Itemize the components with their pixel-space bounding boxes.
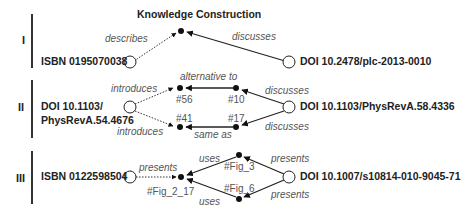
source-node-label-2-line2: PhysRevA.54.4676 xyxy=(41,114,134,126)
edge-label-presents-bottom: presents xyxy=(271,189,309,200)
source-node-label-2-line1: DOI 10.1103/ xyxy=(41,100,103,112)
node-tag-fig-3: #Fig_3 xyxy=(224,161,255,172)
edge-label-uses-top: uses xyxy=(199,153,220,164)
diagram-title: Knowledge Construction xyxy=(137,8,261,20)
edge-label-discusses-bottom: discusses xyxy=(265,121,309,132)
source-node-label-3: ISBN 0122598504 xyxy=(41,170,127,182)
target-node-label-2: DOI 10.1103/PhysRevA.58.4336 xyxy=(300,100,455,112)
node-tag-10: #10 xyxy=(228,94,245,105)
target-node-label-1: DOI 10.2478/plc-2013-0010 xyxy=(300,55,431,67)
edge-label-uses-bottom: uses xyxy=(199,196,220,207)
node-tag-17: #17 xyxy=(228,113,245,124)
node-tag-fig-2-17: #Fig_2_17 xyxy=(147,186,194,197)
node-tag-56: #56 xyxy=(176,94,193,105)
edge-label-introduces-top: introduces xyxy=(111,83,157,94)
edge-label-alternative-to: alternative to xyxy=(180,71,237,82)
edge-label-introduces-bottom: introduces xyxy=(117,126,163,137)
edge-label-presents-left: presents xyxy=(139,162,177,173)
edge-label-discusses-top: discusses xyxy=(265,85,309,96)
edge-label-discusses: discusses xyxy=(232,31,276,42)
source-node-label-1: ISBN 0195070038 xyxy=(41,55,127,67)
node-tag-fig-6: #Fig_6 xyxy=(224,183,255,194)
edge-label-same-as: same as xyxy=(194,129,232,140)
edge-label-describes: describes xyxy=(105,33,148,44)
target-node-label-3: DOI 10.1007/s10814-010-9045-71 xyxy=(300,170,461,182)
edge-label-presents-top: presents xyxy=(271,153,309,164)
node-tag-41: #41 xyxy=(176,113,193,124)
